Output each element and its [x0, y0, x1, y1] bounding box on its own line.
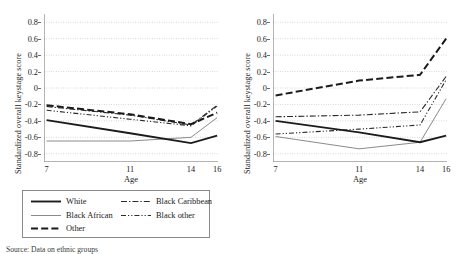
y-tick-label: 0.4	[28, 51, 38, 60]
y-tick-label: 0.6	[257, 34, 267, 43]
y-axis-ticks-right: 0.80.60.40.20-0.2-0.4-0.6-0.8	[227, 14, 267, 162]
legend-key-dash-dot	[121, 196, 151, 207]
plot-lines-right	[273, 14, 447, 162]
legend-label: Other	[66, 224, 85, 233]
y-tick-label: 0.8	[28, 18, 38, 27]
legend-item: Other	[31, 222, 85, 235]
y-tick-mark	[267, 72, 270, 73]
y-tick-mark	[38, 39, 41, 40]
y-tick-mark	[38, 72, 41, 73]
y-tick-mark	[267, 121, 270, 122]
y-tick-mark	[267, 88, 270, 89]
legend-key-thick-dashed	[31, 223, 61, 234]
y-tick-mark	[267, 104, 270, 105]
plot-lines-left	[44, 14, 218, 162]
y-tick-label: -0.4	[25, 116, 38, 125]
x-tick-label: 7	[274, 165, 278, 174]
y-tick-label: -0.4	[254, 116, 267, 125]
plot-area-left	[44, 14, 218, 162]
x-tick-label: 14	[187, 165, 195, 174]
series-line	[47, 118, 218, 141]
y-tick-label: 0.2	[28, 67, 38, 76]
series-line	[276, 121, 447, 142]
legend-label: Black other	[156, 211, 195, 220]
y-tick-label: 0.4	[257, 51, 267, 60]
legend-key-thin-solid	[31, 210, 61, 221]
legend-key-dash-dot-dot	[121, 210, 151, 221]
y-tick-label: -0.6	[25, 133, 38, 142]
x-tick-label: 11	[126, 165, 134, 174]
x-tick-label: 14	[416, 165, 424, 174]
y-tick-mark	[38, 154, 41, 155]
legend-line-key	[31, 210, 61, 221]
y-tick-mark	[267, 154, 270, 155]
y-tick-mark	[38, 137, 41, 138]
plot-area-right	[273, 14, 447, 162]
y-axis-ticks-left: 0.80.60.40.20-0.2-0.4-0.6-0.8	[0, 14, 38, 162]
x-tick-label: 7	[45, 165, 49, 174]
series-line	[276, 80, 447, 134]
y-tick-mark	[38, 88, 41, 89]
x-tick-label: 16	[442, 165, 450, 174]
legend-label: Black Caribbean	[156, 197, 212, 206]
y-tick-mark	[267, 137, 270, 138]
series-line	[276, 39, 447, 96]
y-tick-label: -0.2	[25, 100, 38, 109]
legend-item: Black African	[31, 209, 113, 222]
y-tick-mark	[38, 104, 41, 105]
y-tick-label: 0.8	[257, 18, 267, 27]
y-tick-mark	[267, 22, 270, 23]
y-tick-mark	[38, 22, 41, 23]
legend-line-key	[31, 196, 61, 207]
y-tick-mark	[267, 55, 270, 56]
figure-two-panel-line-charts: Standardized overall keystage score 0.80…	[0, 0, 458, 254]
legend-key-thick-solid	[31, 196, 61, 207]
legend-item: Black Caribbean	[121, 195, 212, 208]
y-tick-mark	[38, 121, 41, 122]
legend-line-key	[121, 210, 151, 221]
legend-line-key	[121, 196, 151, 207]
panel-left: Standardized overall keystage score 0.80…	[0, 0, 229, 254]
y-tick-label: -0.8	[254, 149, 267, 158]
y-tick-mark	[267, 39, 270, 40]
x-tick-label: 16	[213, 165, 221, 174]
legend-item: White	[31, 195, 86, 208]
x-axis-label-left: Age	[44, 174, 218, 184]
legend-item: Black other	[121, 209, 195, 222]
y-tick-label: 0.6	[28, 34, 38, 43]
panel-right: Standardized overall keystage score 0.80…	[229, 0, 458, 254]
y-tick-label: -0.6	[254, 133, 267, 142]
y-tick-label: -0.2	[254, 100, 267, 109]
x-axis-label-right: Age	[273, 174, 447, 184]
legend-label: Black African	[66, 211, 113, 220]
figure-caption: Source: Data on ethnic groups	[6, 245, 306, 254]
x-tick-label: 11	[355, 165, 363, 174]
y-tick-mark	[38, 55, 41, 56]
legend-left: White Black African Other Black Caribbea…	[22, 190, 210, 238]
y-tick-label: -0.8	[25, 149, 38, 158]
series-line	[47, 105, 218, 124]
legend-label: White	[66, 197, 86, 206]
y-tick-label: 0.2	[257, 67, 267, 76]
legend-line-key	[31, 223, 61, 234]
series-line	[276, 76, 447, 116]
